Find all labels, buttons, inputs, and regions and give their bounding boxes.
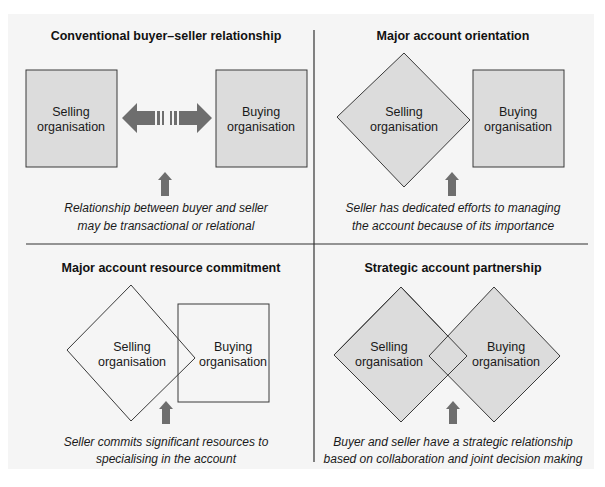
broken-double-arrow-icon [122, 103, 212, 133]
caption-line2: specialising in the account [96, 452, 237, 466]
quadrant-major-account-resource-commitment: Major account resource commitment Sellin… [62, 261, 282, 466]
selling-label-line1: Selling [52, 105, 90, 119]
selling-label-line1: Selling [113, 340, 151, 354]
quadrant-strategic-account-partnership: Strategic account partnership Selling or… [324, 261, 583, 466]
buying-label-line1: Buying [242, 105, 280, 119]
figure-caption-cropped [10, 481, 440, 487]
selling-label-line2: organisation [355, 355, 423, 369]
buying-label-line1: Buying [487, 340, 525, 354]
buying-label-line1: Buying [214, 340, 252, 354]
quadrant-title: Conventional buyer–seller relationship [51, 29, 282, 43]
buying-label-line2: organisation [227, 120, 295, 134]
caption-line2: may be transactional or relational [78, 219, 255, 233]
caption-line2: the account because of its importance [352, 219, 554, 233]
up-arrow-icon [446, 401, 460, 424]
quadrant-title: Major account orientation [377, 29, 530, 43]
up-arrow-icon [159, 401, 173, 424]
quadrant-title: Major account resource commitment [62, 261, 282, 275]
caption-line1: Relationship between buyer and seller [64, 201, 268, 215]
quadrant-conventional: Conventional buyer–seller relationship S… [26, 29, 307, 233]
selling-label-line2: organisation [37, 120, 105, 134]
caption-line1: Buyer and seller have a strategic relati… [333, 435, 573, 449]
caption-line1: Seller commits significant resources to [64, 435, 269, 449]
buying-label-line2: organisation [199, 355, 267, 369]
selling-label-line1: Selling [370, 340, 408, 354]
quadrant-title: Strategic account partnership [364, 261, 541, 275]
buying-label-line1: Buying [499, 105, 537, 119]
selling-label-line1: Selling [385, 105, 423, 119]
up-arrow-icon [445, 172, 459, 196]
buying-label-line2: organisation [472, 355, 540, 369]
caption-line1: Seller has dedicated efforts to managing [346, 201, 561, 215]
quadrant-major-account-orientation: Major account orientation Selling organi… [337, 29, 564, 233]
selling-label-line2: organisation [370, 120, 438, 134]
caption-line2: based on collaboration and joint decisio… [324, 452, 583, 466]
up-arrow-icon [158, 172, 172, 196]
buying-label-line2: organisation [484, 120, 552, 134]
account-relationship-diagram: Conventional buyer–seller relationship S… [0, 0, 605, 487]
selling-label-line2: organisation [98, 355, 166, 369]
